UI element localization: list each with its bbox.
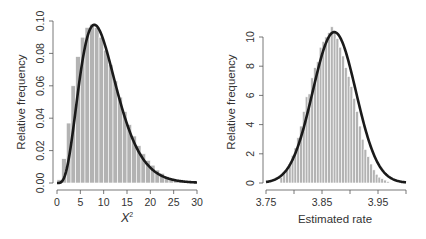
histogram-bar xyxy=(350,87,353,183)
histogram-bar xyxy=(356,111,359,183)
histogram-bar xyxy=(370,164,373,183)
histogram-bar xyxy=(342,56,345,183)
histogram-bar xyxy=(108,65,113,183)
y-tick-label: 4 xyxy=(244,122,256,128)
histogram-bar xyxy=(90,24,95,183)
x-tick-label: 0 xyxy=(54,196,60,208)
y-tick-label: 2 xyxy=(244,151,256,157)
histogram-bar xyxy=(336,38,339,183)
histogram-bar xyxy=(104,50,109,183)
histogram-bar xyxy=(364,149,367,183)
histogram-bar xyxy=(330,27,333,183)
histogram-bar xyxy=(344,68,347,183)
figure: 0.000.020.040.060.080.10 051015202530 Re… xyxy=(0,0,426,239)
chart-left-chi-squared: 0.000.020.040.060.080.10 051015202530 Re… xyxy=(15,11,203,225)
x-tick-label: 5 xyxy=(77,196,83,208)
y-tick-label: 0.00 xyxy=(34,173,46,194)
y-axis-title: Relative frequency xyxy=(225,54,237,149)
histogram-bar xyxy=(322,41,325,183)
y-tick-label: 0.10 xyxy=(34,11,46,32)
chart-right-estimated-rate: 0246810 3.753.853.95 Relative frequency … xyxy=(225,27,406,225)
y-tick-label: 0.04 xyxy=(34,108,46,129)
histogram-bar xyxy=(358,126,361,183)
histogram-bar xyxy=(353,98,356,183)
x-tick-label: 30 xyxy=(191,196,203,208)
x-tick-label: 25 xyxy=(168,196,180,208)
y-axis: 0246810 xyxy=(244,31,263,186)
histogram-bar xyxy=(339,47,342,183)
x-axis-title: Estimated rate xyxy=(298,213,372,225)
y-axis-title: Relative frequency xyxy=(15,54,27,149)
y-tick-label: 0.06 xyxy=(34,75,46,96)
x-axis-title-superscript: 2 xyxy=(129,211,133,218)
x-tick-label: 15 xyxy=(121,196,133,208)
histogram-bar xyxy=(375,174,378,183)
x-tick-label: 3.75 xyxy=(256,196,277,208)
histogram-bar xyxy=(85,27,90,183)
x-tick-label: 3.95 xyxy=(368,196,389,208)
histogram-bar xyxy=(367,157,370,183)
histogram-bar xyxy=(381,179,384,183)
histogram-bar xyxy=(372,170,375,183)
histogram-bar xyxy=(378,177,381,183)
y-tick-label: 0 xyxy=(244,180,256,186)
x-axis: 051015202530 xyxy=(54,190,203,208)
histogram-bar xyxy=(328,33,331,183)
histogram-bar xyxy=(347,76,350,183)
x-tick-label: 10 xyxy=(98,196,110,208)
histogram-bar xyxy=(94,27,99,183)
histogram-bar xyxy=(333,33,336,183)
x-tick-label: 3.85 xyxy=(312,196,333,208)
y-tick-label: 0.08 xyxy=(34,43,46,64)
y-tick-label: 8 xyxy=(244,63,256,69)
x-tick-label: 20 xyxy=(144,196,156,208)
histogram-bars xyxy=(280,27,389,183)
x-axis-title: X2 xyxy=(120,211,133,225)
y-axis: 0.000.020.040.060.080.10 xyxy=(34,11,53,194)
histogram-bar xyxy=(384,180,387,183)
y-tick-label: 10 xyxy=(244,31,256,43)
histogram-bar xyxy=(325,37,328,183)
histogram-bars xyxy=(57,24,197,183)
x-axis: 3.753.853.95 xyxy=(256,190,406,208)
histogram-bar xyxy=(386,182,389,183)
y-tick-label: 0.02 xyxy=(34,140,46,161)
histogram-bar xyxy=(280,177,283,183)
histogram-bar xyxy=(316,62,319,183)
histogram-bar xyxy=(361,139,364,183)
y-tick-label: 6 xyxy=(244,92,256,98)
histogram-bar xyxy=(113,81,118,183)
histogram-bar xyxy=(99,37,104,183)
